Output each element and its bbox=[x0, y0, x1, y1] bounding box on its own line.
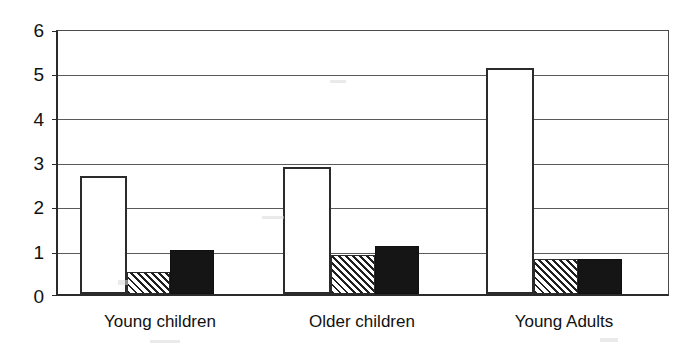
bar-chart: 6 5 4 3 2 1 0 Young children Older bbox=[0, 0, 691, 354]
bar-older-children-white bbox=[283, 167, 331, 294]
bar-young-adults-black bbox=[578, 259, 622, 294]
scan-speck bbox=[150, 340, 180, 343]
y-tick-label-1: 1 bbox=[10, 243, 44, 262]
x-category-label-young-children: Young children bbox=[70, 312, 250, 331]
gridline-5 bbox=[58, 75, 668, 76]
y-tickmark-1 bbox=[52, 253, 58, 254]
bar-young-adults-white bbox=[486, 68, 534, 294]
y-tickmark-4 bbox=[52, 119, 58, 120]
bar-young-children-white bbox=[80, 176, 127, 294]
x-category-label-young-adults: Young Adults bbox=[474, 312, 654, 331]
y-tick-label-3: 3 bbox=[10, 154, 44, 173]
y-tick-label-0: 0 bbox=[10, 287, 44, 306]
bar-young-adults-hatch bbox=[534, 259, 578, 294]
y-tick-label-6: 6 bbox=[10, 21, 44, 40]
gridline-3 bbox=[58, 164, 668, 165]
y-tick-label-4: 4 bbox=[10, 110, 44, 129]
gridline-2 bbox=[58, 208, 668, 209]
y-tickmark-3 bbox=[52, 164, 58, 165]
y-tickmark-6 bbox=[52, 31, 58, 32]
scan-speck bbox=[600, 338, 618, 342]
x-category-label-older-children: Older children bbox=[272, 312, 452, 331]
bar-older-children-black bbox=[375, 246, 419, 294]
bar-young-children-hatch bbox=[127, 272, 170, 294]
y-tickmark-0 bbox=[52, 295, 58, 296]
y-tickmark-2 bbox=[52, 208, 58, 209]
bar-young-children-black bbox=[170, 250, 214, 294]
plot-area bbox=[56, 30, 669, 296]
y-tick-label-2: 2 bbox=[10, 198, 44, 217]
y-tickmark-5 bbox=[52, 75, 58, 76]
gridline-4 bbox=[58, 119, 668, 120]
y-tick-label-5: 5 bbox=[10, 65, 44, 84]
bar-older-children-hatch bbox=[331, 255, 375, 294]
